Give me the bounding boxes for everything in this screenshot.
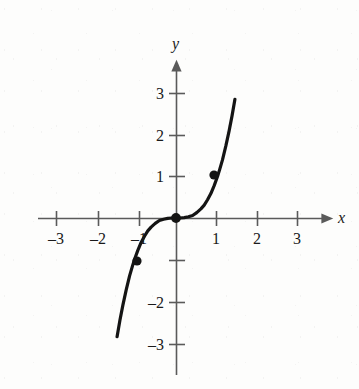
x-tick-label-neg3: –3 bbox=[48, 231, 64, 247]
marked-point-1 bbox=[209, 170, 218, 179]
y-axis-label: y bbox=[172, 36, 179, 52]
x-tick-label-neg1: –1 bbox=[131, 231, 147, 247]
marked-point-neg1 bbox=[132, 256, 141, 265]
x-axis-label: x bbox=[338, 210, 345, 226]
y-tick-label-neg3: –3 bbox=[148, 337, 164, 353]
x-tick-label-1: 1 bbox=[212, 231, 220, 247]
y-tick-label-neg2: –2 bbox=[148, 295, 164, 311]
marked-point-origin bbox=[171, 213, 181, 223]
cubic-graph-plot bbox=[0, 0, 359, 389]
graph-figure: x y –3 –2 –1 1 2 3 3 2 1 –2 –3 bbox=[0, 0, 359, 389]
y-tick-label-3: 3 bbox=[156, 86, 164, 102]
axis-lines bbox=[38, 70, 323, 375]
y-tick-label-1: 1 bbox=[156, 169, 164, 185]
x-tick-label-2: 2 bbox=[253, 231, 261, 247]
x-tick-label-3: 3 bbox=[293, 231, 301, 247]
y-tick-label-2: 2 bbox=[156, 128, 164, 144]
x-tick-label-neg2: –2 bbox=[90, 231, 106, 247]
